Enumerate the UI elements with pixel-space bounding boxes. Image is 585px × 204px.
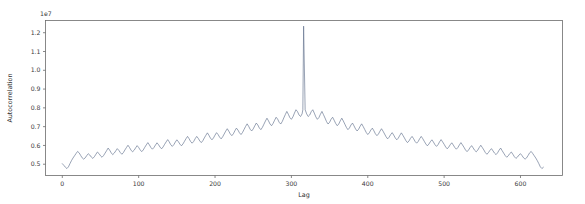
autocorrelation-figure: 01002003004005006000.50.60.70.80.91.01.1… [0,0,585,204]
y-tick-label: 0.7 [31,123,41,130]
x-tick-label: 400 [362,180,374,187]
x-tick-label: 600 [515,180,527,187]
y-tick-label: 0.6 [31,142,41,149]
x-tick-label: 200 [209,180,221,187]
y-tick-label: 0.9 [31,85,41,92]
y-axis-title: Autocorrelation [6,73,14,122]
x-axis-title: Lag [298,191,310,199]
x-tick-label: 100 [133,180,145,187]
y-tick-label: 0.5 [31,160,41,167]
y-tick-label: 1.1 [31,48,41,55]
y-axis-offset-label: 1e7 [40,10,52,17]
y-tick-label: 1.2 [31,29,41,36]
autocorrelation-line [62,26,543,168]
autocorrelation-plot: 01002003004005006000.50.60.70.80.91.01.1… [0,0,585,204]
y-tick-label: 1.0 [31,66,41,73]
y-tick-label: 0.8 [31,104,41,111]
x-tick-label: 500 [438,180,450,187]
x-tick-label: 300 [285,180,297,187]
axis-ticks: 01002003004005006000.50.60.70.80.91.01.1… [31,29,527,187]
x-tick-label: 0 [60,180,64,187]
